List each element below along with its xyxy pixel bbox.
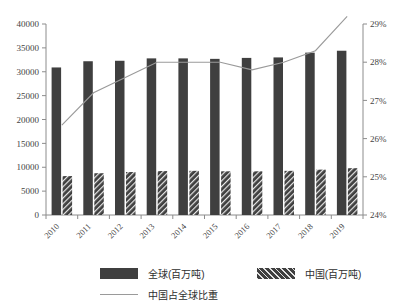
svg-text:10000: 10000 bbox=[17, 162, 40, 172]
svg-text:27%: 27% bbox=[370, 96, 387, 106]
svg-text:25000: 25000 bbox=[17, 91, 40, 101]
legend-item-share[interactable]: 中国占全球比重 bbox=[100, 287, 218, 302]
chart-plot-area: 0500010000150002000025000300003500040000… bbox=[0, 0, 407, 308]
svg-text:2013: 2013 bbox=[137, 221, 156, 240]
legend-swatch-global-icon bbox=[100, 268, 138, 279]
x-axis bbox=[46, 215, 363, 219]
svg-text:35000: 35000 bbox=[17, 43, 40, 53]
svg-text:2018: 2018 bbox=[296, 221, 315, 240]
svg-text:5000: 5000 bbox=[21, 186, 40, 196]
line-series-share bbox=[62, 16, 347, 125]
svg-text:25%: 25% bbox=[370, 172, 387, 182]
legend-row-secondary: 中国占全球比重 bbox=[100, 287, 218, 302]
x-axis-labels: 2010201120122013201420152016201720182019 bbox=[42, 221, 346, 241]
legend-label-share: 中国占全球比重 bbox=[148, 287, 218, 302]
svg-text:40000: 40000 bbox=[17, 19, 40, 29]
svg-text:2011: 2011 bbox=[74, 221, 93, 240]
svg-text:2010: 2010 bbox=[42, 221, 61, 240]
svg-text:26%: 26% bbox=[370, 134, 387, 144]
legend-line-share-icon bbox=[100, 289, 138, 300]
svg-text:0: 0 bbox=[35, 210, 40, 220]
svg-text:2015: 2015 bbox=[201, 221, 220, 240]
legend-label-global: 全球(百万吨) bbox=[148, 266, 205, 281]
legend-label-china: 中国(百万吨) bbox=[305, 266, 362, 281]
svg-text:2016: 2016 bbox=[232, 221, 251, 240]
y-axis-left: 0500010000150002000025000300003500040000 bbox=[17, 19, 47, 220]
svg-text:15000: 15000 bbox=[17, 139, 40, 149]
svg-text:29%: 29% bbox=[370, 19, 387, 29]
svg-text:2017: 2017 bbox=[264, 221, 283, 240]
svg-text:28%: 28% bbox=[370, 57, 387, 67]
svg-text:2014: 2014 bbox=[169, 221, 189, 241]
chart-container: 0500010000150002000025000300003500040000… bbox=[0, 0, 407, 308]
legend-item-global[interactable]: 全球(百万吨) bbox=[100, 266, 205, 281]
y-axis-right: 24%25%26%27%28%29% bbox=[363, 19, 387, 220]
legend-swatch-china-icon bbox=[257, 268, 295, 279]
svg-text:2012: 2012 bbox=[106, 221, 125, 240]
svg-text:24%: 24% bbox=[370, 210, 387, 220]
svg-text:20000: 20000 bbox=[17, 115, 40, 125]
legend-row-primary: 全球(百万吨) 中国(百万吨) bbox=[100, 266, 361, 281]
svg-text:30000: 30000 bbox=[17, 67, 40, 77]
legend-item-china[interactable]: 中国(百万吨) bbox=[257, 266, 362, 281]
svg-text:2019: 2019 bbox=[327, 221, 346, 240]
